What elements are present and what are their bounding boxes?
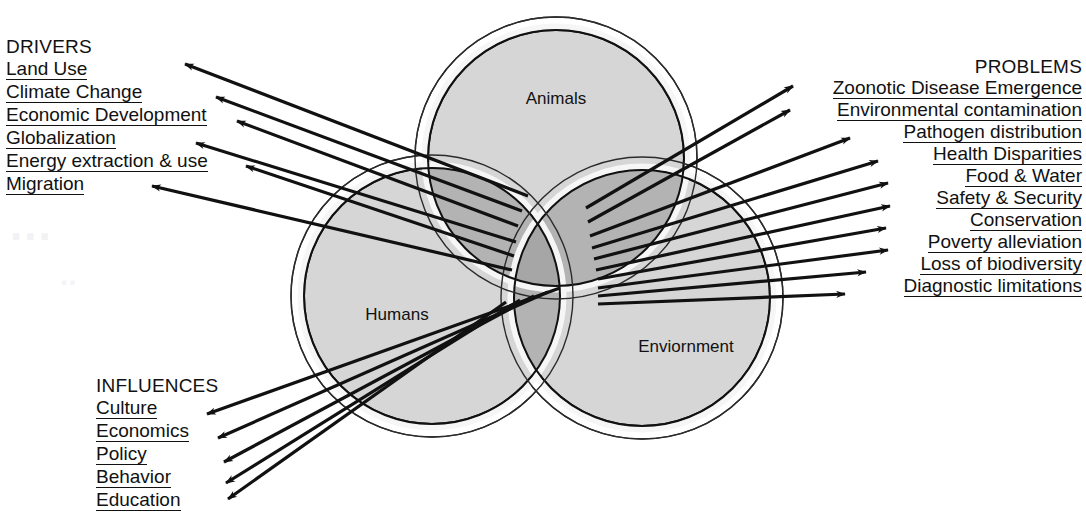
problem-item-2: Pathogen distribution: [833, 122, 1082, 144]
driver-item-2: Economic Development: [6, 105, 208, 128]
problems-heading: PROBLEMS: [833, 56, 1082, 78]
driver-item-1: Climate Change: [6, 82, 208, 105]
figure-canvas: Animals Humans Enviornment ... .. DRIVER…: [0, 0, 1086, 523]
problem-item-8: Loss of biodiversity: [833, 254, 1082, 276]
environment-label: Enviornment: [638, 337, 734, 356]
influence-item-1: Economics: [96, 421, 218, 444]
problem-item-3: Health Disparities: [833, 144, 1082, 166]
influence-item-2: Policy: [96, 444, 218, 467]
influences-heading: INFLUENCES: [96, 375, 218, 398]
problem-item-7: Poverty alleviation: [833, 232, 1082, 254]
problem-item-5: Safety & Security: [833, 188, 1082, 210]
problem-item-9: Diagnostic limitations: [833, 276, 1082, 298]
influence-item-3: Behavior: [96, 467, 218, 490]
humans-label: Humans: [365, 305, 428, 324]
influences-list: INFLUENCES Culture Economics Policy Beha…: [96, 375, 218, 513]
drivers-list: DRIVERS Land Use Climate Change Economic…: [6, 36, 208, 197]
problems-list: PROBLEMS Zoonotic Disease Emergence Envi…: [833, 56, 1082, 298]
scan-artifact-upper: ...: [10, 200, 53, 250]
problem-item-1: Environmental contamination: [833, 100, 1082, 122]
influence-item-4: Education: [96, 490, 218, 513]
influence-item-0: Culture: [96, 398, 218, 421]
scan-artifact-lower: ..: [60, 258, 77, 292]
driver-item-5: Migration: [6, 174, 208, 197]
driver-item-4: Energy extraction & use: [6, 151, 208, 174]
problem-item-4: Food & Water: [833, 166, 1082, 188]
problem-item-0: Zoonotic Disease Emergence: [833, 78, 1082, 100]
problem-item-6: Conservation: [833, 210, 1082, 232]
animals-label: Animals: [526, 89, 586, 108]
driver-item-3: Globalization: [6, 128, 208, 151]
driver-item-0: Land Use: [6, 59, 208, 82]
drivers-heading: DRIVERS: [6, 36, 208, 59]
